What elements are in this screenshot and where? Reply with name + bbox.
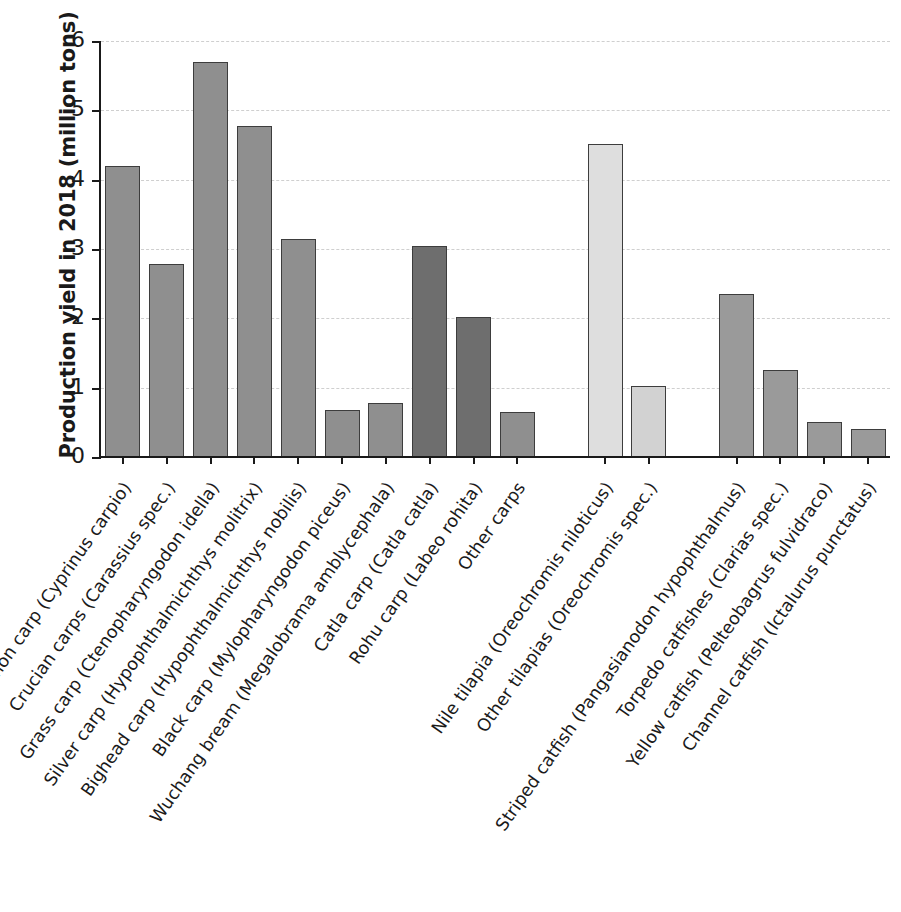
bar[interactable]: [105, 166, 140, 457]
y-axis-tick-group: 0123456: [0, 41, 101, 457]
x-axis-tick-mark: [341, 457, 343, 464]
x-axis-tick-mark: [166, 457, 168, 464]
y-axis-tick-label: 2: [71, 304, 85, 330]
x-axis-tick-mark: [122, 457, 124, 464]
x-axis-tick-mark: [823, 457, 825, 464]
y-axis-tick-label: 0: [71, 443, 85, 469]
x-axis-label-text: Yellow catfish (Pelteobagrus fulvidraco): [623, 478, 836, 771]
y-axis-tick-label: 5: [71, 96, 85, 122]
x-axis-tick-mark: [210, 457, 212, 464]
x-axis-tick-mark: [253, 457, 255, 464]
x-axis-tick-mark: [516, 457, 518, 464]
gridline: [101, 41, 890, 42]
y-axis-tick-label: 1: [71, 374, 85, 400]
x-axis-tick-mark: [867, 457, 869, 464]
y-axis-tick-label: 4: [71, 166, 85, 192]
y-axis-tick-label: 3: [71, 235, 85, 261]
x-axis-tick-mark: [736, 457, 738, 464]
bar-chart-figure: Production yield in 2018 (million tons) …: [0, 0, 901, 912]
x-axis-tick-mark: [604, 457, 606, 464]
x-axis-tick-mark: [779, 457, 781, 464]
x-axis-tick-mark: [429, 457, 431, 464]
x-axis-tick-mark: [473, 457, 475, 464]
x-axis-tick-mark: [297, 457, 299, 464]
y-axis-tick-label: 6: [71, 27, 85, 53]
x-axis-tick-mark: [385, 457, 387, 464]
x-axis-tick-mark: [648, 457, 650, 464]
